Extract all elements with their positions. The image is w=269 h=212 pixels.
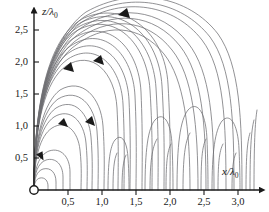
y-axis-tick-label: 2,5 (4, 25, 28, 36)
y-axis-tick-label: 0,5 (4, 153, 28, 164)
y-axis-tick-label: 1,5 (4, 89, 28, 100)
field-line (34, 0, 242, 190)
flow-direction-arrow (93, 55, 104, 65)
y-axis-title-subscript: 0 (54, 11, 58, 20)
field-line (250, 120, 254, 190)
field-line (145, 117, 173, 190)
flow-direction-arrow (58, 118, 68, 127)
x-axis-tick-label: 3,0 (224, 197, 252, 208)
x-axis-tick-label: 1,5 (122, 197, 150, 208)
field-line (34, 31, 142, 190)
y-axis-tick-label: 2,0 (4, 57, 28, 68)
field-line (246, 133, 250, 190)
field-line-group (34, 0, 257, 190)
x-axis-tick-label: 0,5 (54, 197, 82, 208)
field-line (150, 139, 157, 190)
field-line (183, 133, 190, 190)
x-axis-title-subscript: 0 (235, 171, 239, 180)
field-line (254, 110, 257, 190)
origin-marker-icon (30, 186, 38, 194)
x-axis-tick-label: 1,0 (88, 197, 116, 208)
flow-direction-arrow (85, 116, 95, 126)
field-line (34, 95, 98, 190)
y-axis-title: z/λ0 (42, 6, 58, 20)
contour-plot-canvas (0, 0, 269, 212)
figure-container: 2,5 2,0 1,5 1,0 0,5 0,5 1,0 1,5 2,0 2,5 … (0, 0, 269, 212)
field-line (113, 153, 117, 190)
field-line (34, 159, 63, 190)
y-axis-tick-label: 1,0 (4, 121, 28, 132)
field-line (34, 24, 152, 190)
x-axis-tick-group (68, 190, 238, 195)
field-line (34, 20, 158, 190)
x-axis-tick-label: 2,5 (190, 197, 218, 208)
x-axis-title: x/λ0 (222, 166, 238, 180)
x-axis-tick-label: 2,0 (156, 197, 184, 208)
